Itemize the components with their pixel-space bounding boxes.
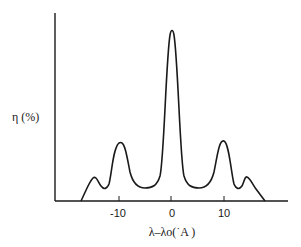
efficiency-curve [81, 31, 265, 202]
x-tick-label-0: 0 [169, 207, 175, 219]
x-axis-label: λ–λo(˙A ) [149, 225, 196, 239]
x-tick-label-10: 10 [218, 207, 230, 219]
x-tick-label-neg10: -10 [110, 207, 126, 219]
chart: -10 0 10 λ–λo(˙A ) η (%) [0, 0, 301, 247]
y-axis-label: η (%) [12, 110, 39, 124]
